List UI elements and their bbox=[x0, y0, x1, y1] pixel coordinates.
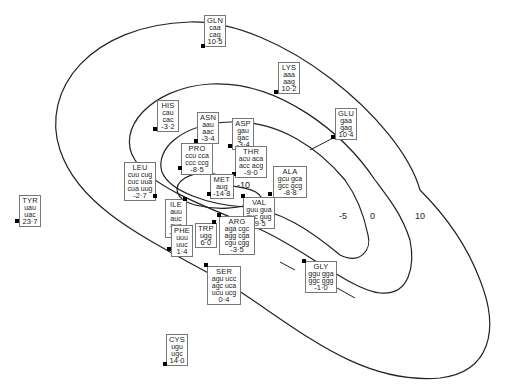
codon-row: gau bbox=[235, 127, 251, 134]
amino-acid-box-leu: LEUcuu cugcuc uuacua uug-2·7 bbox=[124, 162, 156, 201]
codon-row: agg cga bbox=[222, 232, 252, 239]
amino-acid-value: -3·5 bbox=[222, 246, 252, 253]
codon-row: agu ucc bbox=[210, 275, 238, 282]
codon-row: auu bbox=[168, 208, 184, 215]
amino-acid-value: 23·7 bbox=[22, 218, 38, 225]
codon-row: cuu cug bbox=[127, 171, 153, 178]
amino-acid-box-phe: PHEuuuuuc1·4 bbox=[171, 225, 193, 257]
position-marker bbox=[163, 362, 167, 366]
amino-acid-value: -8·5 bbox=[184, 166, 210, 173]
codon-row: uau bbox=[22, 204, 38, 211]
codon-row: ccu cca bbox=[184, 152, 210, 159]
codon-row: aau bbox=[200, 121, 216, 128]
position-marker bbox=[228, 144, 232, 148]
codon-row: auc bbox=[168, 215, 184, 222]
position-marker bbox=[274, 90, 278, 94]
amino-acid-name: ASP bbox=[235, 120, 251, 127]
amino-acid-value: 10·4 bbox=[338, 131, 354, 138]
codon-row: acu aca bbox=[238, 155, 264, 162]
codon-row: aga cgc bbox=[222, 225, 252, 232]
position-marker bbox=[204, 263, 208, 267]
amino-acid-box-ser: SERagu uccagc ucaucu ucg0·4 bbox=[207, 266, 241, 305]
contour-label-minus5: -5 bbox=[339, 211, 347, 221]
amino-acid-name: LYS bbox=[281, 64, 297, 71]
codon-row: caa bbox=[207, 24, 223, 31]
amino-acid-box-gly: GLYggu ggaggc ggg-1·0 bbox=[305, 261, 337, 293]
amino-acid-value: -1·0 bbox=[308, 284, 334, 291]
position-marker bbox=[217, 213, 221, 217]
contour-plot bbox=[0, 0, 506, 391]
position-marker bbox=[178, 166, 182, 170]
position-marker bbox=[241, 194, 245, 198]
contour-label-10: 10 bbox=[415, 211, 425, 221]
amino-acid-box-asn: ASNaauaac-3·4 bbox=[197, 112, 219, 144]
amino-acid-value: 6·0 bbox=[198, 239, 214, 246]
amino-acid-name: VAL bbox=[246, 199, 272, 206]
codon-row: gcu gca bbox=[276, 175, 304, 182]
amino-acid-name: LEU bbox=[127, 164, 153, 171]
amino-acid-box-his: HIScaucac-3·2 bbox=[157, 100, 179, 132]
position-marker bbox=[207, 192, 211, 196]
amino-acid-value: -9·0 bbox=[238, 169, 264, 176]
codon-row: ugu bbox=[169, 343, 185, 350]
amino-acid-value: 14·0 bbox=[169, 357, 185, 364]
codon-row: guu gua bbox=[246, 206, 272, 213]
amino-acid-box-tyr: TYRuauuac23·7 bbox=[19, 195, 41, 227]
amino-acid-box-trp: TRPugg6·0 bbox=[195, 223, 217, 248]
position-marker bbox=[167, 247, 171, 251]
amino-acid-box-gln: GLNcaacag10·5 bbox=[204, 15, 226, 47]
amino-acid-name: TYR bbox=[22, 197, 38, 204]
position-marker bbox=[212, 220, 216, 224]
position-marker bbox=[153, 194, 157, 198]
amino-acid-value: 10·2 bbox=[281, 85, 297, 92]
amino-acid-name: TRP bbox=[198, 225, 214, 232]
amino-acid-box-ala: ALAgcu gcagcc gcg-8·8 bbox=[273, 166, 307, 198]
codon-row: cuc uua bbox=[127, 178, 153, 185]
contour-label-minus10: -10 bbox=[237, 180, 250, 190]
amino-acid-box-thr: THRacu acaacc acg-9·0 bbox=[235, 146, 267, 178]
codon-row: gaa bbox=[338, 117, 354, 124]
position-marker bbox=[331, 135, 335, 139]
amino-acid-name: HIS bbox=[160, 102, 176, 109]
amino-acid-name: ASN bbox=[200, 114, 216, 121]
position-marker bbox=[302, 259, 306, 263]
amino-acid-name: GLN bbox=[207, 17, 223, 24]
amino-acid-name: PRO bbox=[184, 145, 210, 152]
amino-acid-name: THR bbox=[238, 148, 264, 155]
amino-acid-box-arg: ARGaga cgcagg cgacgu cgg-3·5 bbox=[219, 216, 255, 255]
position-marker bbox=[268, 192, 272, 196]
amino-acid-value: 1·4 bbox=[174, 248, 190, 255]
amino-acid-name: PHE bbox=[174, 227, 190, 234]
amino-acid-name: MET bbox=[213, 176, 231, 183]
codon-row: ggu gga bbox=[308, 270, 334, 277]
codon-row: uuu bbox=[174, 234, 190, 241]
amino-acid-value: -8·8 bbox=[276, 189, 304, 196]
contour-label-0: 0 bbox=[370, 211, 375, 221]
amino-acid-value: 0·4 bbox=[210, 296, 238, 303]
amino-acid-value: -2·7 bbox=[127, 192, 153, 199]
amino-acid-name: ILE bbox=[168, 201, 184, 208]
amino-acid-box-glu: GLUgaagag10·4 bbox=[335, 108, 357, 140]
amino-acid-box-met: METaug-14·8 bbox=[210, 174, 234, 199]
amino-acid-name: GLY bbox=[308, 263, 334, 270]
amino-acid-name: ALA bbox=[276, 168, 304, 175]
amino-acid-value: 10·5 bbox=[207, 38, 223, 45]
amino-acid-name: GLU bbox=[338, 110, 354, 117]
amino-acid-value: -3·2 bbox=[160, 123, 176, 130]
amino-acid-value: -3·4 bbox=[200, 135, 216, 142]
position-marker bbox=[183, 197, 187, 201]
position-marker bbox=[153, 127, 157, 131]
codon-row: cau bbox=[160, 109, 176, 116]
amino-acid-box-pro: PROccu ccaccc ccg-8·5 bbox=[181, 143, 213, 175]
amino-acid-name: SER bbox=[210, 268, 238, 275]
amino-acid-name: CYS bbox=[169, 336, 185, 343]
amino-acid-value: -14·8 bbox=[213, 190, 231, 197]
position-marker bbox=[201, 44, 205, 48]
codon-row: agc uca bbox=[210, 282, 238, 289]
amino-acid-name: ARG bbox=[222, 218, 252, 225]
position-marker bbox=[15, 219, 19, 223]
codon-row: aaa bbox=[281, 71, 297, 78]
amino-acid-box-cys: CYSuguugc14·0 bbox=[166, 334, 188, 366]
amino-acid-box-lys: LYSaaaaag10·2 bbox=[278, 62, 300, 94]
